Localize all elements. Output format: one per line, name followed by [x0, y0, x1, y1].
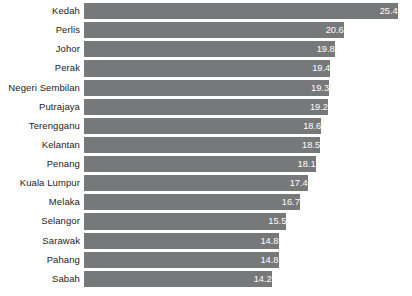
bar-track: 15.5	[84, 213, 412, 229]
category-label: Perak	[0, 60, 80, 76]
category-label: Sabah	[0, 271, 80, 287]
bar-row: Negeri Sembilan19.3	[0, 80, 412, 99]
bar-row: Sabah14.2	[0, 271, 412, 290]
category-label: Kelantan	[0, 137, 80, 153]
bar-track: 19.3	[84, 80, 412, 96]
bar-track: 14.8	[84, 233, 412, 249]
bar-value-label: 19.8	[84, 41, 339, 57]
category-label: Selangor	[0, 213, 80, 229]
bar-value-label: 16.7	[84, 194, 304, 210]
bar-track: 19.4	[84, 60, 412, 76]
category-label: Kuala Lumpur	[0, 175, 80, 191]
category-label: Pahang	[0, 252, 80, 268]
bar-track: 14.2	[84, 271, 412, 287]
bar-track: 20.6	[84, 22, 412, 38]
category-label: Terengganu	[0, 118, 80, 134]
category-label: Putrajaya	[0, 99, 80, 115]
bar-track: 19.8	[84, 41, 412, 57]
bar-value-label: 17.4	[84, 175, 312, 191]
bar-value-label: 14.8	[84, 233, 283, 249]
plot-area: Kedah25.4Perlis20.6Johor19.8Perak19.4Neg…	[0, 3, 412, 290]
bar-row: Kuala Lumpur17.4	[0, 175, 412, 194]
bar-row: Perak19.4	[0, 60, 412, 79]
bar-row: Terengganu18.6	[0, 118, 412, 137]
bar-row: Selangor15.5	[0, 213, 412, 232]
bar-value-label: 19.4	[84, 60, 334, 76]
category-label: Negeri Sembilan	[0, 80, 80, 96]
bar-track: 18.1	[84, 156, 412, 172]
bar-row: Melaka16.7	[0, 194, 412, 213]
bar-track: 18.6	[84, 118, 412, 134]
category-label: Sarawak	[0, 233, 80, 249]
bar-value-label: 20.6	[84, 22, 348, 38]
bar-row: Putrajaya19.2	[0, 99, 412, 118]
bar-track: 25.4	[84, 3, 412, 19]
bar-track: 18.5	[84, 137, 412, 153]
bar-row: Perlis20.6	[0, 22, 412, 41]
bar-value-label: 19.3	[84, 80, 333, 96]
bar-row: Kelantan18.5	[0, 137, 412, 156]
bar-track: 14.8	[84, 252, 412, 268]
bar-row: Penang18.1	[0, 156, 412, 175]
bar-row: Pahang14.8	[0, 252, 412, 271]
category-label: Perlis	[0, 22, 80, 38]
category-label: Kedah	[0, 3, 80, 19]
category-label: Melaka	[0, 194, 80, 210]
bar-value-label: 18.5	[84, 137, 324, 153]
bar-value-label: 14.2	[84, 271, 276, 287]
category-label: Penang	[0, 156, 80, 172]
category-label: Johor	[0, 41, 80, 57]
bar-value-label: 15.5	[84, 213, 290, 229]
bar-track: 16.7	[84, 194, 412, 210]
bar-row: Johor19.8	[0, 41, 412, 60]
bar-track: 19.2	[84, 99, 412, 115]
bar-value-label: 25.4	[84, 3, 402, 19]
bar-row: Kedah25.4	[0, 3, 412, 22]
bar-chart: Kedah25.4Perlis20.6Johor19.8Perak19.4Neg…	[0, 0, 412, 296]
bar-value-label: 14.8	[84, 252, 283, 268]
bar-track: 17.4	[84, 175, 412, 191]
bar-value-label: 18.1	[84, 156, 320, 172]
bar-row: Sarawak14.8	[0, 233, 412, 252]
bar-value-label: 19.2	[84, 99, 332, 115]
bar-value-label: 18.6	[84, 118, 325, 134]
